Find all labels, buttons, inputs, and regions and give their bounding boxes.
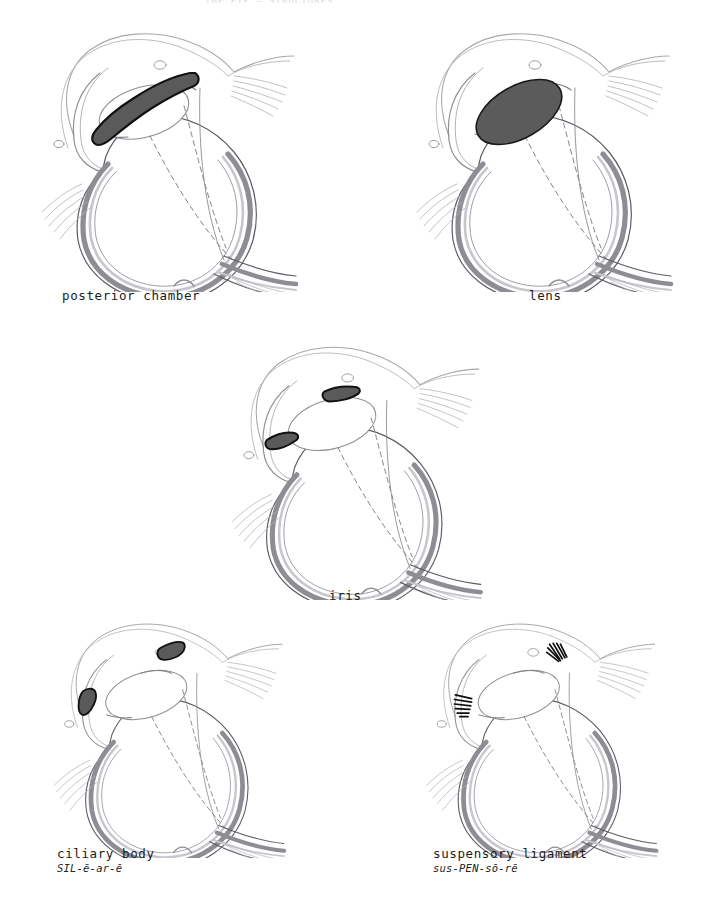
highlight-ciliary-upper xyxy=(157,642,184,660)
eye-diagram-ciliary-body xyxy=(38,608,298,858)
label-term-posterior-chamber: posterior chamber xyxy=(62,288,200,303)
highlight-zonule-lower xyxy=(454,695,471,717)
page-header-fragment: THE EYE — STRUCTURES xyxy=(205,0,505,3)
eye-cross-section-svg xyxy=(408,608,673,858)
caption-posterior-chamber: posterior chamber xyxy=(62,288,200,304)
caption-iris: iris xyxy=(329,588,362,604)
eye-diagram-lens xyxy=(408,16,678,292)
label-term-iris: iris xyxy=(329,588,362,603)
highlight-iris-lower xyxy=(265,433,298,450)
label-pronunciation-ciliary-body: SIL-ē-ar-ē xyxy=(57,862,155,874)
label-term-suspensory-ligament: suspensory ligament xyxy=(433,846,587,861)
caption-lens: lens xyxy=(529,288,562,304)
eye-diagram-suspensory-ligament xyxy=(408,608,673,858)
highlight-ciliary-lower xyxy=(79,689,97,715)
eye-diagram-posterior-chamber xyxy=(38,16,298,292)
label-term-lens: lens xyxy=(529,288,562,303)
eye-cross-section-svg xyxy=(408,16,678,292)
eye-cross-section-svg xyxy=(38,608,298,858)
eye-cross-section-svg xyxy=(38,16,298,292)
label-term-ciliary-body: ciliary body xyxy=(57,846,155,861)
label-pronunciation-suspensory-ligament: sus-PEN-sō-rē xyxy=(433,862,587,874)
eye-diagram-iris xyxy=(223,330,488,600)
eye-cross-section-svg xyxy=(223,330,488,600)
caption-suspensory-ligament: suspensory ligament sus-PEN-sō-rē xyxy=(433,846,587,874)
highlight-zonule-upper xyxy=(547,643,567,661)
caption-ciliary-body: ciliary body SIL-ē-ar-ē xyxy=(57,846,155,874)
